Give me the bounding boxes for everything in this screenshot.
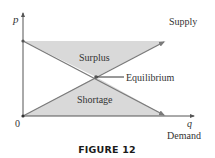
figure-caption: FIGURE 12 <box>78 144 136 155</box>
supply-demand-diagram: p 0 q Supply Demand Surplus Shortage Equ… <box>0 0 215 158</box>
equilibrium-label: Equilibrium <box>126 72 175 83</box>
demand-label: Demand <box>167 130 201 141</box>
y-axis-label: p <box>12 13 19 25</box>
surplus-label: Surplus <box>79 52 110 63</box>
supply-label: Supply <box>169 16 197 27</box>
origin-label: 0 <box>15 118 20 129</box>
origin-dot <box>21 114 24 117</box>
shortage-label: Shortage <box>77 94 113 105</box>
demand-intercept-dot <box>21 39 24 42</box>
x-axis-label: q <box>187 118 192 129</box>
